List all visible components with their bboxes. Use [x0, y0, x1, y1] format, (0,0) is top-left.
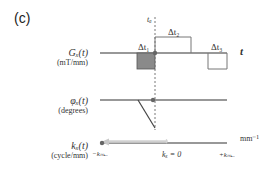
dt3-lobe: [208, 53, 227, 69]
dt2-lobe: [155, 37, 191, 53]
k-unit-label: mm⁻¹: [240, 134, 259, 143]
pulse-sequence-diagram: tₐ Δt₁ Δt₂ Δt₃ t mm⁻¹ −kₘₐₓ kₓ = 0 +kₘₐₓ: [0, 0, 272, 173]
ta-label: tₐ: [147, 15, 152, 24]
phase-ramp: [138, 100, 155, 128]
arrow-tail: [166, 140, 167, 144]
time-axis-label: t: [240, 45, 244, 57]
k-pos-max-label: +kₘₐₓ: [219, 151, 235, 159]
gradient-ta-dot: [153, 51, 157, 55]
kmax-dot: [100, 141, 104, 145]
dt2-label: Δt₂: [168, 27, 179, 37]
dt3-label: Δt₃: [211, 42, 222, 52]
dt1-lobe: [137, 53, 155, 69]
phase-ta-dot: [151, 98, 155, 102]
k-zero-label: kₓ = 0: [162, 150, 181, 159]
k-neg-max-label: −kₘₐₓ: [92, 150, 108, 158]
dt1-label: Δt₁: [138, 42, 149, 52]
